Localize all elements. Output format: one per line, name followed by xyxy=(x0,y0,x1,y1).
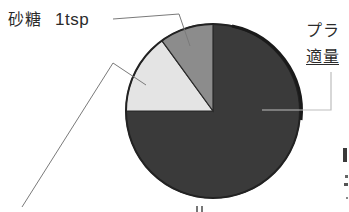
cutoff-text-fragment xyxy=(346,197,348,199)
cutoff-text-fragment xyxy=(345,175,348,178)
pie-chart xyxy=(0,0,349,212)
cutoff-text-fragment xyxy=(343,148,347,162)
label-sugar-qty: 1tsp xyxy=(55,10,89,29)
cutoff-text-fragment xyxy=(201,206,203,212)
label-plastic-qty: 適量 xyxy=(306,48,339,66)
label-plastic-name: プラ xyxy=(306,22,339,40)
leader-line-light-slice xyxy=(22,63,146,207)
cutoff-text-fragment xyxy=(344,183,348,186)
cutoff-text-fragment xyxy=(196,206,198,212)
label-sugar: 砂糖1tsp xyxy=(8,11,89,29)
label-sugar-name: 砂糖 xyxy=(8,10,41,29)
